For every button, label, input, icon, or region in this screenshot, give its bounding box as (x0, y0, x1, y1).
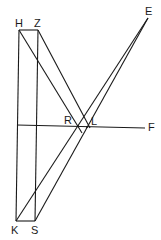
label-F: F (148, 122, 155, 133)
label-L: L (91, 116, 97, 127)
label-Z: Z (34, 18, 41, 29)
segment-HL (19, 30, 82, 133)
label-S: S (31, 225, 38, 236)
geometric-diagram (0, 0, 161, 240)
label-R: R (64, 115, 72, 126)
label-K: K (11, 225, 18, 236)
point-R (77, 125, 79, 127)
label-E: E (145, 6, 152, 17)
segment-KE (16, 18, 148, 221)
point-L (86, 126, 88, 128)
label-H: H (15, 18, 23, 29)
